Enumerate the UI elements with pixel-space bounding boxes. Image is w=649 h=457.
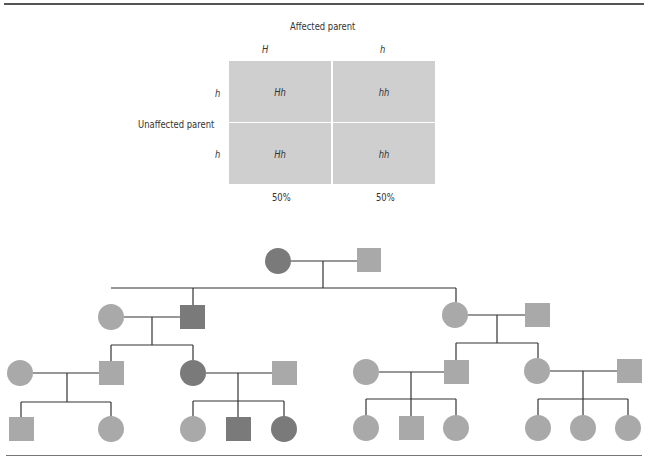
gen3-female-affected <box>180 360 206 386</box>
gen1-female-affected <box>265 248 291 274</box>
gen4-female <box>570 415 596 441</box>
gen4-female-affected <box>271 416 297 442</box>
gen3-female <box>524 358 550 384</box>
gen3-female <box>353 359 379 385</box>
gen3-male <box>272 361 297 385</box>
gen3-female <box>7 360 33 386</box>
gen4-male <box>9 417 34 441</box>
gen3-male <box>617 359 642 383</box>
bottom-rule <box>6 455 642 456</box>
pedigree-lines <box>21 261 628 417</box>
gen4-female <box>443 415 469 441</box>
gen4-female <box>98 416 124 442</box>
gen4-female <box>615 415 641 441</box>
gen2-female <box>442 302 468 328</box>
gen3-male <box>444 360 469 384</box>
pedigree-chart <box>0 0 649 457</box>
gen4-female <box>353 415 379 441</box>
gen4-female <box>180 416 206 442</box>
gen1-male <box>357 248 381 272</box>
gen2-female <box>98 304 124 330</box>
gen4-male-affected <box>226 417 251 441</box>
gen2-male-affected <box>180 305 205 329</box>
gen3-male <box>99 361 124 385</box>
gen2-male <box>525 303 550 327</box>
gen4-male <box>399 416 424 440</box>
gen4-female <box>525 415 551 441</box>
